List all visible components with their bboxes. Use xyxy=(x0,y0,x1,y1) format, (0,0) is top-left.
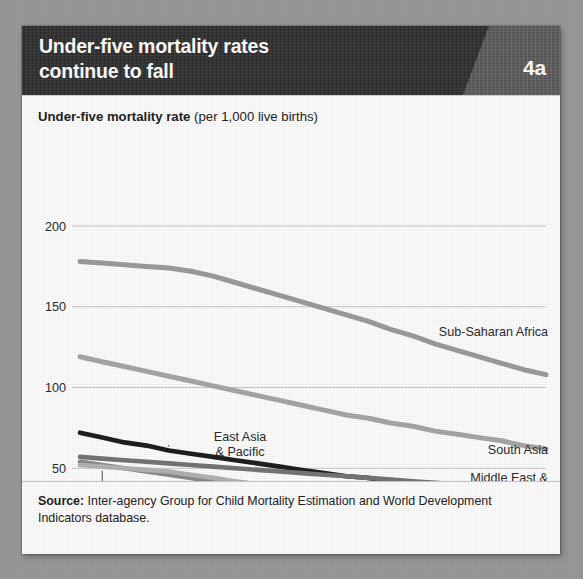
y-tick-label-200: 200 xyxy=(45,220,66,234)
figure-card: 4a Under-five mortality rates continue t… xyxy=(22,26,560,554)
y-tick-label-100: 100 xyxy=(45,381,66,395)
series-label-east-asia-pacific-line2: & Pacific xyxy=(216,445,265,459)
source-text: Inter-agency Group for Child Mortality E… xyxy=(38,494,492,525)
figure-title-line2: continue to fall xyxy=(39,59,419,84)
y-tick-label-50: 50 xyxy=(52,462,66,476)
figure-title-line1: Under-five mortality rates xyxy=(39,34,419,59)
y-tick-label-150: 150 xyxy=(45,300,66,314)
series-line-sub-saharan-africa xyxy=(80,262,546,375)
footer-divider xyxy=(22,481,560,482)
series-line-south-asia xyxy=(80,357,546,449)
figure-number-badge: 4a xyxy=(523,56,546,80)
series-label-east-asia-pacific: East Asia xyxy=(214,430,267,444)
source-label: Source: xyxy=(38,494,84,508)
source-note: Source: Inter-agency Group for Child Mor… xyxy=(38,493,536,527)
figure-header: 4a Under-five mortality rates continue t… xyxy=(22,26,560,95)
figure-title: Under-five mortality rates continue to f… xyxy=(39,34,419,84)
series-label-sub-saharan-africa: Sub-Saharan Africa xyxy=(439,325,548,339)
figure-footer: Source: Inter-agency Group for Child Mor… xyxy=(22,481,560,554)
series-label-south-asia: South Asia xyxy=(488,443,548,457)
